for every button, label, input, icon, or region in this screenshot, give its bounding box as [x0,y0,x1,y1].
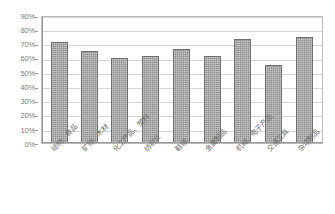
bar-misc-products [296,37,313,143]
bar-textile [142,56,159,143]
y-tick-label: 70% [21,41,35,49]
y-tick-mark [35,88,38,89]
y-tick-mark [35,45,38,46]
y-tick-label: 50% [21,70,35,78]
y-tick-label: 0% [25,141,35,149]
y-tick-label: 80% [21,27,35,35]
bar-series [42,17,322,143]
y-axis: 90% 80% 70% 60% 50% 40% 30% 20% 10% 0% [0,10,38,150]
x-axis: 动物、食品 矿物、木材 化工产品、塑料 纺织业 鞋帽 金属制品 机械、电子产品 … [41,146,323,212]
bar-machinery-electronics [234,39,251,143]
y-tick-mark [35,116,38,117]
y-tick-label: 30% [21,98,35,106]
y-tick-mark [35,144,38,145]
y-tick-label: 60% [21,55,35,63]
y-tick-mark [35,59,38,60]
y-tick-mark [35,102,38,103]
y-tick-label: 10% [21,127,35,135]
y-tick-mark [35,73,38,74]
y-axis-line [42,17,43,143]
plot-area [41,16,323,144]
y-tick-label: 90% [21,13,35,21]
y-tick-mark [35,31,38,32]
y-tick-mark [35,130,38,131]
y-tick-label: 40% [21,84,35,92]
y-tick-mark [35,17,38,18]
bar-chart: 90% 80% 70% 60% 50% 40% 30% 20% 10% 0% [0,0,335,214]
y-tick-label: 20% [21,112,35,120]
bar-footwear-hats [173,49,190,143]
